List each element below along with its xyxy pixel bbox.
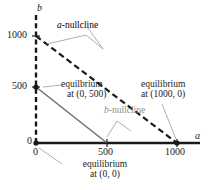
phase-plane-figure: b a 1000 500 0 0 500 1000 a-nullcline b-… (0, 0, 209, 190)
y-tick-label-1000: 1000 (7, 30, 27, 41)
equilibrium-point-0-500 (33, 84, 38, 89)
y-axis-label: b (37, 3, 42, 14)
a-nullcline-leader (47, 28, 103, 49)
equilibrium-1000-0-leader (162, 104, 176, 139)
x-tick-label-1000: 1000 (165, 147, 185, 158)
equilibrium-label-0-0: equilibrium at (0, 0) (60, 159, 150, 180)
equilibrium-label-1000-0-line1: equilibrium (141, 79, 185, 89)
y-tick-label-0: 0 (27, 136, 32, 147)
a-nullcline-label-suffix: -nullcline (62, 20, 98, 30)
b-nullcline-label: b-nullcline (104, 105, 145, 115)
x-axis-label: a (195, 131, 200, 142)
b-nullcline-leader (107, 121, 131, 137)
b-nullcline-label-suffix: -nullcline (109, 105, 145, 115)
equilibrium-point-1000-0 (174, 140, 179, 145)
equilibrium-0-500-leader (43, 85, 62, 87)
equilibrium-label-0-0-line2: at (0, 0) (60, 169, 150, 179)
equilibrium-label-0-500-line2: at (0, 500) (61, 89, 106, 99)
x-tick-label-500: 500 (98, 147, 113, 158)
x-tick-label-0: 0 (33, 147, 38, 158)
equilibrium-label-1000-0: equilibrium at (1000, 0) (141, 79, 185, 100)
equilibrium-label-0-0-line1: equilibrium (60, 159, 150, 169)
equilibrium-label-0-500-line1: equilbrium (61, 79, 106, 89)
y-tick-label-500: 500 (12, 81, 27, 92)
a-nullcline-label: a-nullcline (57, 20, 98, 30)
equilibrium-label-0-500: equilbrium at (0, 500) (61, 79, 106, 100)
equilibrium-label-1000-0-line2: at (1000, 0) (141, 89, 185, 99)
equilibrium-point-origin (33, 140, 38, 145)
equilibrium-0-0-leader (39, 148, 62, 164)
